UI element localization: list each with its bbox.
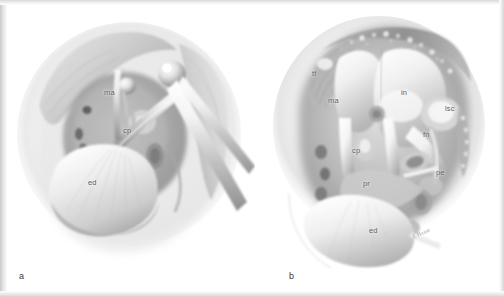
panel-a-artwork: ma cp ed — [9, 6, 255, 289]
page-edge-top-shadow — [0, 0, 504, 5]
panel-b-illustration-svg — [255, 6, 498, 289]
page-edge-right-shadow — [499, 0, 504, 297]
panel-letter-b: b — [289, 271, 294, 281]
figure-panel-a: ma cp ed a — [9, 6, 255, 289]
figure-root: ma cp ed a — [0, 0, 504, 297]
page-edge-left-shadow — [0, 0, 7, 297]
figure-panel-b: tf ma in lsc fn cp pe pr ed J. Haase b — [255, 6, 498, 289]
panel-b-artwork: tf ma in lsc fn cp pe pr ed J. Haase — [255, 6, 498, 289]
page-edge-bottom-shadow — [0, 291, 504, 297]
panel-letter-a: a — [19, 271, 24, 281]
panel-a-illustration-svg — [9, 6, 255, 289]
figure-plate: ma cp ed a — [9, 6, 498, 289]
